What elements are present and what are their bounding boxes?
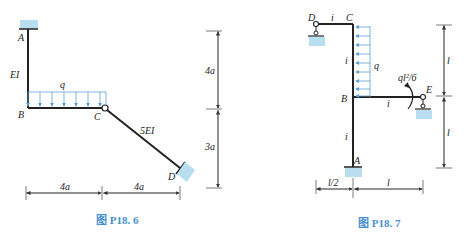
load-label-q: q — [374, 60, 379, 71]
member-cd — [107, 110, 180, 168]
figure-p18-7: D C B A E i i i i q ql²/6 l l — [307, 12, 452, 229]
dim-label-l-right: l — [387, 177, 390, 188]
roller-support-d — [309, 37, 325, 46]
roller-support-e — [416, 110, 432, 119]
dim-label-l-bottom: l — [447, 127, 450, 138]
figure-caption-p18-7: 图 P18. 7 — [358, 217, 401, 229]
stiffness-label-ab: EI — [9, 69, 20, 80]
stiffness-label-be: i — [387, 98, 390, 109]
dim-label-l-top: l — [447, 55, 450, 66]
figure-p18-6: A B C D EI 5EI q 4a 3a 4a 4a — [9, 20, 222, 226]
load-label-q: q — [60, 79, 65, 90]
stiffness-label-cd: 5EI — [140, 125, 155, 136]
stiffness-label-dc: i — [331, 12, 334, 23]
vertical-dimension — [436, 25, 452, 168]
node-label-c: C — [346, 12, 353, 23]
node-label-a: A — [17, 32, 25, 43]
distributed-load-q — [356, 26, 370, 97]
node-label-b: B — [341, 93, 347, 104]
horizontal-dimension — [26, 186, 180, 200]
node-label-b: B — [18, 109, 24, 120]
figure-caption-p18-6: 图 P18. 6 — [96, 214, 139, 226]
fixed-support-a — [20, 20, 38, 29]
fixed-support-a — [345, 168, 362, 177]
dim-label-3a-vertical: 3a — [204, 141, 215, 152]
moment-label: ql²/6 — [398, 72, 417, 83]
dim-label-4a-vertical: 4a — [205, 65, 215, 76]
dim-label-4a-left: 4a — [60, 181, 70, 192]
fixed-support-d — [177, 162, 195, 182]
diagram-canvas: A B C D EI 5EI q 4a 3a 4a 4a — [0, 0, 464, 239]
dim-label-4a-right: 4a — [134, 181, 144, 192]
node-label-a: A — [353, 155, 361, 166]
node-label-d: D — [167, 171, 176, 182]
distributed-load-q — [28, 92, 106, 106]
node-label-e: E — [425, 84, 432, 95]
hinge-e — [421, 95, 426, 100]
stiffness-label-ba: i — [345, 131, 348, 142]
dim-label-l-half: l/2 — [328, 177, 339, 188]
node-label-c: C — [94, 111, 101, 122]
vertical-dimension — [206, 31, 222, 188]
stiffness-label-cb: i — [345, 55, 348, 66]
node-label-d: D — [307, 12, 316, 23]
